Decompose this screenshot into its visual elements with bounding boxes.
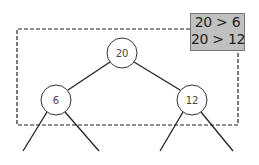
edge-root-left — [68, 62, 110, 90]
edge-right-child-left — [160, 112, 183, 151]
node-label: 6 — [53, 95, 59, 106]
node-label: 20 — [116, 48, 129, 59]
edge-left-child-left — [23, 112, 47, 151]
edge-right-child-right — [201, 112, 233, 151]
comparison-line-2: 20 > 12 — [191, 31, 244, 48]
tree-node-left: 6 — [41, 85, 71, 115]
comparison-line-1: 20 > 6 — [191, 14, 244, 31]
node-label: 12 — [186, 95, 199, 106]
tree-node-right: 12 — [177, 85, 207, 115]
edge-left-child-right — [65, 112, 99, 151]
tree-node-root: 20 — [107, 38, 137, 68]
edge-root-right — [134, 62, 180, 90]
comparison-box: 20 > 6 20 > 12 — [190, 13, 245, 51]
